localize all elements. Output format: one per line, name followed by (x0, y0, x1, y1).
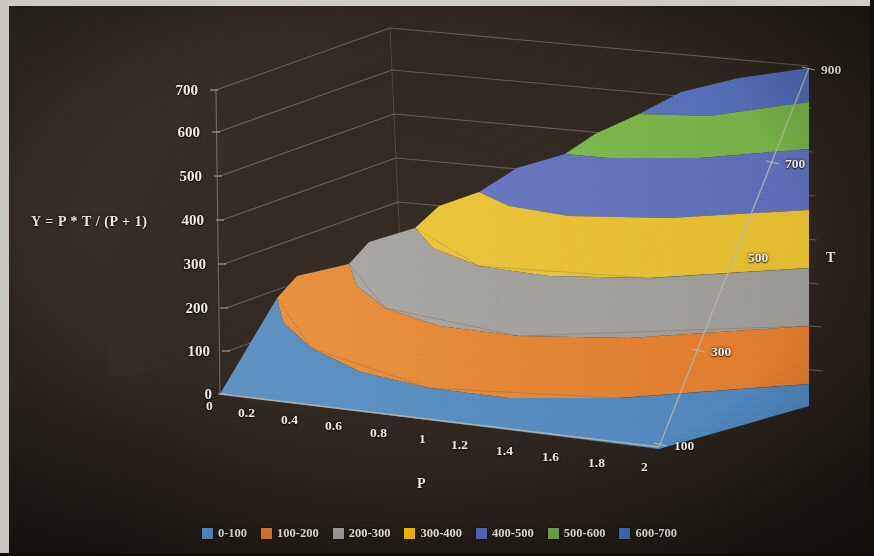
legend-swatch-icon (619, 528, 630, 539)
y-tick-700: 700 (140, 82, 198, 99)
legend-swatch-icon (548, 528, 559, 539)
y-tick-200: 200 (150, 300, 208, 317)
photo-frame-left (0, 0, 9, 556)
x-tick-0.8: 0.8 (370, 425, 387, 441)
x-tick-1.8: 1.8 (588, 455, 605, 471)
screenshot-root: 700 600 500 400 300 200 100 0 Y = P * T … (0, 0, 874, 556)
legend-label: 500-600 (564, 526, 606, 541)
y-tick-0: 0 (154, 386, 212, 403)
legend-label: 600-700 (635, 526, 677, 541)
z-tick-100: 100 (674, 438, 694, 454)
z-tick-700: 700 (785, 156, 805, 172)
x-tick-0: 0 (206, 398, 213, 414)
legend-label: 300-400 (420, 526, 462, 541)
legend-item-400-500[interactable]: 400-500 (476, 526, 534, 541)
z-tick-300: 300 (711, 344, 731, 360)
y-tick-400: 400 (146, 212, 204, 229)
y-axis-title: Y = P * T / (P + 1) (31, 214, 148, 230)
chart-legend: 0-100 100-200 200-300 300-400 400-500 50… (9, 526, 870, 541)
legend-item-0-100[interactable]: 0-100 (202, 526, 247, 541)
legend-item-500-600[interactable]: 500-600 (548, 526, 606, 541)
z-tick-900: 900 (821, 62, 841, 78)
z-axis-title: T (826, 250, 836, 266)
legend-swatch-icon (261, 528, 272, 539)
x-tick-1: 1 (419, 431, 426, 447)
y-tick-100: 100 (152, 343, 210, 360)
legend-swatch-icon (404, 528, 415, 539)
x-tick-1.6: 1.6 (542, 449, 559, 465)
y-tick-500: 500 (144, 168, 202, 185)
x-tick-0.6: 0.6 (325, 418, 342, 434)
legend-swatch-icon (333, 528, 344, 539)
legend-item-200-300[interactable]: 200-300 (333, 526, 391, 541)
legend-label: 0-100 (218, 526, 247, 541)
x-tick-2: 2 (641, 459, 648, 475)
photo-frame-right (870, 0, 874, 556)
surface-chart-3d (9, 6, 870, 553)
legend-label: 100-200 (277, 526, 319, 541)
legend-item-600-700[interactable]: 600-700 (619, 526, 677, 541)
legend-item-100-200[interactable]: 100-200 (261, 526, 319, 541)
photo-frame-top (9, 0, 874, 6)
x-axis-title: P (417, 476, 426, 492)
y-tick-300: 300 (148, 256, 206, 273)
x-tick-1.4: 1.4 (496, 443, 513, 459)
x-tick-1.2: 1.2 (451, 437, 468, 453)
x-tick-0.2: 0.2 (238, 405, 255, 421)
x-tick-0.4: 0.4 (281, 412, 298, 428)
legend-label: 400-500 (492, 526, 534, 541)
z-tick-500: 500 (748, 250, 768, 266)
legend-swatch-icon (202, 528, 213, 539)
chart-canvas: 700 600 500 400 300 200 100 0 Y = P * T … (9, 6, 870, 553)
legend-swatch-icon (476, 528, 487, 539)
legend-item-300-400[interactable]: 300-400 (404, 526, 462, 541)
legend-label: 200-300 (349, 526, 391, 541)
y-tick-600: 600 (142, 124, 200, 141)
